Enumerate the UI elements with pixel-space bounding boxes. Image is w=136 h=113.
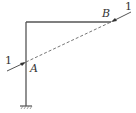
point-label-a: A [29,62,38,75]
frame-diagram: A B 1 1 [0,0,136,113]
point-label-b: B [101,7,110,20]
frame-svg: A B 1 1 [0,0,136,113]
force-label-a: 1 [5,54,12,67]
dashed-line-ab [26,22,111,62]
arrowhead-a-icon [20,62,26,66]
arrowhead-b-icon [111,18,117,22]
force-label-b: 1 [125,0,132,13]
